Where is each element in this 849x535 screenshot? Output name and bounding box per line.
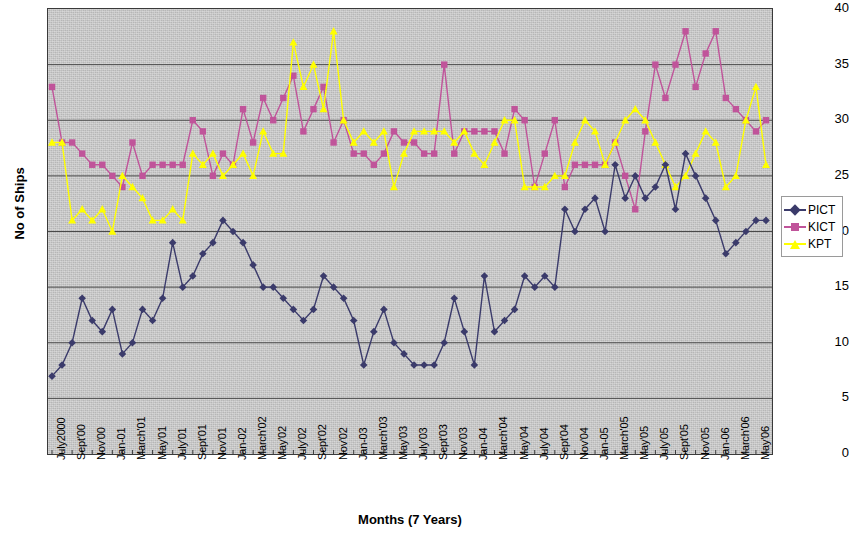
data-point-marker (249, 261, 257, 269)
data-point-marker (78, 205, 86, 212)
chart-figure: No of Ships 0510152025303540 July2000Sep… (0, 0, 849, 535)
x-tick-label: May'03 (397, 426, 409, 460)
series-kpt (48, 27, 770, 235)
data-point-marker (159, 294, 167, 302)
data-point-marker (490, 138, 498, 145)
data-point-marker (672, 61, 678, 67)
data-point-marker (49, 84, 55, 90)
data-point-marker (89, 162, 95, 168)
data-point-marker (481, 128, 487, 134)
data-point-marker (381, 150, 387, 156)
y-tick-label: 10 (809, 335, 849, 348)
x-tick-label: July'05 (658, 428, 670, 461)
y-tick-label: 25 (809, 168, 849, 181)
data-point-marker (79, 150, 85, 156)
data-point-marker (189, 149, 197, 156)
data-point-marker (611, 161, 619, 169)
data-point-marker (149, 162, 155, 168)
x-tick-label: July'02 (296, 428, 308, 461)
x-tick-label: Nov'03 (457, 427, 469, 460)
data-point-marker (98, 205, 106, 212)
data-point-marker (360, 361, 368, 369)
x-tick-label: March'06 (739, 417, 751, 460)
legend-item-kict[interactable]: KICT (784, 218, 839, 235)
y-axis-title: No of Ships (12, 154, 27, 254)
data-point-marker (692, 84, 698, 90)
data-point-marker (169, 239, 177, 247)
data-point-marker (401, 139, 407, 145)
series-line (52, 31, 766, 231)
data-point-marker (601, 228, 609, 236)
data-point-marker (411, 139, 417, 145)
x-tick-label: May'01 (156, 426, 168, 460)
x-tick-label: Jan-01 (115, 428, 127, 460)
data-point-marker (391, 128, 397, 134)
data-point-marker (762, 161, 770, 168)
x-tick-label: May'05 (638, 426, 650, 460)
data-point-marker (441, 61, 447, 67)
data-point-marker (259, 283, 267, 291)
data-point-marker (562, 184, 568, 190)
legend-item-kpt[interactable]: KPT (784, 235, 839, 252)
data-point-marker (300, 128, 306, 134)
data-point-marker (622, 173, 628, 179)
data-point-marker (763, 117, 769, 123)
data-point-marker (682, 28, 688, 34)
data-point-marker (481, 272, 489, 280)
data-point-marker (69, 139, 75, 145)
y-tick-label: 35 (809, 57, 849, 70)
data-point-marker (501, 150, 507, 156)
x-axis-title: Months (7 Years) (250, 512, 570, 527)
data-point-marker (310, 106, 316, 112)
data-point-marker (662, 95, 668, 101)
data-point-marker (712, 217, 720, 225)
y-tick-label: 40 (809, 1, 849, 14)
data-point-marker (109, 306, 117, 314)
triangle-marker-icon (784, 238, 806, 250)
data-point-marker (370, 328, 378, 336)
data-point-marker (78, 294, 86, 302)
data-point-marker (651, 138, 659, 145)
legend-item-pict[interactable]: PICT (784, 201, 839, 218)
data-point-marker (430, 361, 438, 369)
x-tick-label: May'06 (759, 426, 771, 460)
data-point-marker (461, 328, 469, 336)
data-point-marker (753, 128, 759, 134)
x-tick-label: July2000 (55, 418, 67, 460)
data-point-marker (511, 106, 517, 112)
data-point-marker (159, 162, 165, 168)
data-point-marker (733, 106, 739, 112)
data-point-marker (431, 150, 437, 156)
plot-area (47, 8, 773, 455)
data-point-marker (330, 139, 336, 145)
data-point-marker (68, 339, 76, 347)
data-point-marker (572, 162, 578, 168)
legend: PICTKICTKPT (781, 196, 843, 257)
x-tick-label: Sept'01 (196, 424, 208, 460)
data-point-marker (702, 194, 710, 202)
data-point-marker (350, 317, 358, 325)
data-point-marker (582, 162, 588, 168)
x-tick-label: Nov'01 (216, 427, 228, 460)
data-point-marker (350, 150, 356, 156)
data-point-marker (270, 117, 276, 123)
data-point-marker (440, 339, 448, 347)
data-point-marker (561, 205, 569, 213)
x-tick-label: March'04 (497, 417, 509, 460)
diamond-marker-icon (784, 204, 806, 216)
data-point-marker (491, 128, 497, 134)
data-point-marker (400, 149, 408, 156)
y-tick-label: 30 (809, 112, 849, 125)
data-point-marker (632, 206, 638, 212)
x-tick-label: Jan-04 (477, 428, 489, 460)
data-point-marker (190, 117, 196, 123)
data-point-marker (169, 162, 175, 168)
x-tick-label: Sept'05 (678, 424, 690, 460)
data-point-marker (571, 228, 579, 236)
data-point-marker (592, 162, 598, 168)
x-tick-label: Sept'03 (437, 424, 449, 460)
data-point-marker (209, 149, 217, 156)
data-point-marker (451, 150, 457, 156)
data-point-marker (713, 28, 719, 34)
data-point-marker (571, 138, 579, 145)
